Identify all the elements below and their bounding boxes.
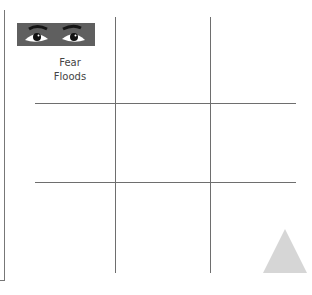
grid-horizontal-line-2 bbox=[35, 182, 296, 183]
caption-line-2: Floods bbox=[45, 70, 95, 84]
left-border bbox=[4, 10, 5, 281]
worried-eyes-icon bbox=[17, 23, 95, 46]
grid-vertical-line-1 bbox=[115, 17, 116, 273]
grid-vertical-line-2 bbox=[210, 17, 211, 273]
grid-horizontal-line-1 bbox=[35, 103, 296, 104]
triangle-shape bbox=[263, 229, 307, 273]
caption-line-1: Fear bbox=[45, 56, 95, 70]
left-border-foot bbox=[0, 280, 5, 281]
